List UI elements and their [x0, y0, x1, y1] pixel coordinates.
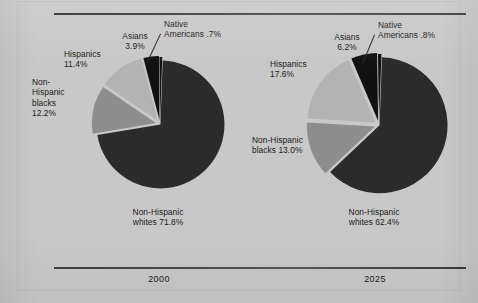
label-hispanics-2025: Hispanics 17.6%	[270, 59, 332, 80]
label-hispanics-2000: Hispanics 11.4%	[64, 49, 124, 70]
pie-2000-svg	[90, 54, 230, 194]
pie-chart-2000	[90, 54, 230, 194]
rule-top	[54, 13, 466, 15]
figure-root: Asians 3.9% Native Americans .7% Hispani…	[0, 0, 478, 303]
figure-plate: Asians 3.9% Native Americans .7% Hispani…	[18, 2, 460, 290]
label-non-hispanic-blacks-2025: Non-Hispanic blacks 13.0%	[252, 135, 326, 156]
label-asians-2025: Asians 6.2%	[324, 32, 370, 53]
label-non-hispanic-whites-2025: Non-Hispanic whites 62.4%	[324, 207, 424, 228]
label-non-hispanic-blacks-2000: Non- Hispanic blacks 12.2%	[32, 77, 86, 119]
label-non-hispanic-whites-2000: Non-Hispanic whites 71.8%	[110, 207, 206, 228]
rule-bottom	[54, 267, 466, 269]
year-label-2000: 2000	[124, 274, 194, 284]
label-native-americans-2000: Native Americans .7%	[164, 19, 254, 40]
label-native-americans-2025: Native Americans .8%	[378, 20, 468, 41]
year-label-2025: 2025	[340, 274, 410, 284]
